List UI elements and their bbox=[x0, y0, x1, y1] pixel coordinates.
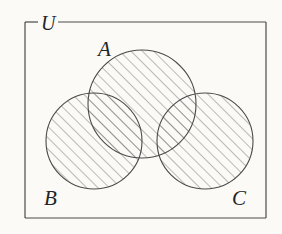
universe-label: U bbox=[41, 12, 57, 34]
set-label-c: C bbox=[232, 186, 247, 210]
venn-diagram-canvas: U A B C bbox=[0, 0, 282, 234]
set-label-a: A bbox=[96, 37, 111, 61]
set-label-b: B bbox=[44, 186, 57, 210]
venn-diagram-figure: U A B C bbox=[0, 0, 282, 234]
